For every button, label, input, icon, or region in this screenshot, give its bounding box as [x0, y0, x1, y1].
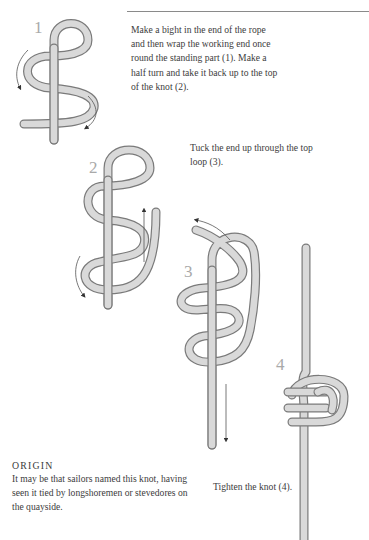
- knot-diagrams: [0, 0, 369, 540]
- knot-diagram-3: [181, 220, 256, 445]
- knot-diagram-4: [288, 248, 344, 540]
- knot-diagram-2: [76, 150, 156, 305]
- knot-diagram-1: [17, 24, 96, 141]
